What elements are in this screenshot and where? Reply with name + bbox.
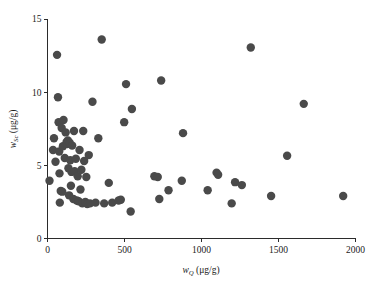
data-point [98,35,106,43]
data-point [164,186,172,194]
y-tick-label: 15 [32,14,42,24]
x-tick-label: 500 [117,245,132,255]
y-axis-title: wSc (μg/g) [8,110,19,149]
data-point [267,192,275,200]
data-point [67,182,75,190]
data-point [53,51,61,59]
x-tick-label: 1000 [192,245,211,255]
data-point [179,129,187,137]
y-tick-label: 10 [32,88,42,98]
data-point [79,127,87,135]
data-point [50,134,58,142]
data-point [120,118,128,126]
data-point [155,195,163,203]
x-axis-title: wQ (μg/g) [182,265,219,276]
data-point [75,146,83,154]
data-point [51,157,59,165]
data-point [247,43,255,51]
data-point [128,105,136,113]
x-tick-label: 2000 [346,245,365,255]
data-point [117,196,125,204]
data-points-group [45,35,347,215]
data-point [82,173,90,181]
x-axis-ticks: 0500100015002000 [45,239,365,255]
data-point [227,199,235,207]
data-point [59,116,67,124]
data-point [126,207,134,215]
data-point [45,177,53,185]
data-point [300,100,308,108]
data-point [100,199,108,207]
data-point [88,97,96,105]
data-point [61,128,69,136]
data-point [157,76,165,84]
data-point [283,152,291,160]
data-point [122,80,130,88]
data-point [154,173,162,181]
data-point [54,93,62,101]
data-point [72,155,80,163]
data-point [203,186,211,194]
data-point [94,134,102,142]
data-point [85,151,93,159]
x-tick-label: 0 [45,245,50,255]
data-point [70,127,78,135]
data-point [238,181,246,189]
data-point [339,192,347,200]
data-point [105,179,113,187]
y-tick-label: 0 [37,234,42,244]
x-tick-label: 1500 [269,245,288,255]
scatter-plot-figure: 051015 0500100015002000 wQ (μg/g) wSc (μ… [0,0,370,289]
data-point [76,185,84,193]
data-point [56,198,64,206]
data-point [91,198,99,206]
data-point [68,141,76,149]
data-point [77,166,85,174]
y-tick-label: 5 [37,161,42,171]
y-axis-ticks: 051015 [32,14,48,244]
data-point [55,169,63,177]
data-point [178,177,186,185]
data-point [214,171,222,179]
plot-canvas: 051015 0500100015002000 wQ (μg/g) wSc (μ… [0,0,370,289]
